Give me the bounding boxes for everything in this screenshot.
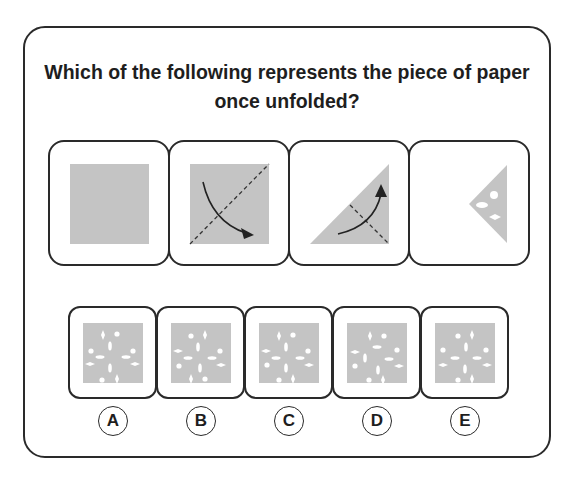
unfolded-square-figure	[50, 142, 168, 264]
option-c-box[interactable]	[244, 306, 333, 399]
question-line-1: Which of the following represents the pi…	[23, 58, 551, 87]
option-e-figure	[422, 308, 507, 397]
fold-step-4	[408, 140, 530, 266]
second-fold-figure	[290, 142, 408, 264]
punched-triangle-figure	[410, 142, 528, 264]
option-c-label[interactable]: C	[274, 406, 304, 436]
option-e-label[interactable]: E	[450, 406, 480, 436]
question-text: Which of the following represents the pi…	[23, 58, 551, 116]
option-d-figure	[334, 308, 419, 397]
hole-circle	[490, 191, 498, 199]
option-b-figure	[158, 308, 243, 397]
fold-step-2	[168, 140, 290, 266]
option-b-label[interactable]: B	[186, 406, 216, 436]
option-d-label[interactable]: D	[362, 406, 392, 436]
option-a-figure	[70, 308, 155, 397]
option-b-box[interactable]	[156, 306, 245, 399]
hole-oval	[476, 202, 488, 208]
diagonal-fold-figure	[170, 142, 288, 264]
option-a-box[interactable]	[68, 306, 157, 399]
fold-step-3	[288, 140, 410, 266]
option-c-figure	[246, 308, 331, 397]
option-d-box[interactable]	[332, 306, 421, 399]
option-e-box[interactable]	[420, 306, 509, 399]
question-line-2: once unfolded?	[23, 87, 551, 116]
fold-step-1	[48, 140, 170, 266]
option-a-label[interactable]: A	[98, 406, 128, 436]
